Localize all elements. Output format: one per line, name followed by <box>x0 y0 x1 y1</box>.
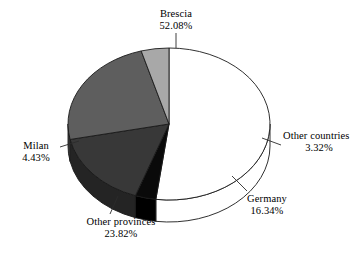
slice-label-other-countries-name: Other countries <box>283 130 362 142</box>
slice-label-other-provinces: Other provinces 23.82% <box>72 216 170 241</box>
slice-label-other-countries-percent: 3.32% <box>283 142 355 154</box>
slice-label-brescia-percent: 52.08% <box>135 20 217 32</box>
slice-label-milan-name: Milan <box>12 140 60 152</box>
pie-chart-figure: Brescia 52.08% Other countries 3.32% Ger… <box>0 0 362 254</box>
pie-top-faces <box>68 48 270 200</box>
slice-label-brescia-name: Brescia <box>135 8 217 20</box>
pie-chart-canvas <box>0 0 362 254</box>
slice-label-milan-percent: 4.43% <box>12 152 60 164</box>
slice-label-milan: Milan 4.43% <box>12 140 60 165</box>
slice-label-brescia: Brescia 52.08% <box>135 8 217 33</box>
slice-label-other-provinces-name: Other provinces <box>72 216 170 228</box>
slice-label-germany: Germany 16.34% <box>232 193 302 218</box>
slice-label-germany-percent: 16.34% <box>232 205 302 217</box>
slice-label-other-countries: Other countries 3.32% <box>283 130 362 155</box>
slice-label-other-provinces-percent: 23.82% <box>72 228 170 240</box>
slice-label-germany-name: Germany <box>232 193 302 205</box>
